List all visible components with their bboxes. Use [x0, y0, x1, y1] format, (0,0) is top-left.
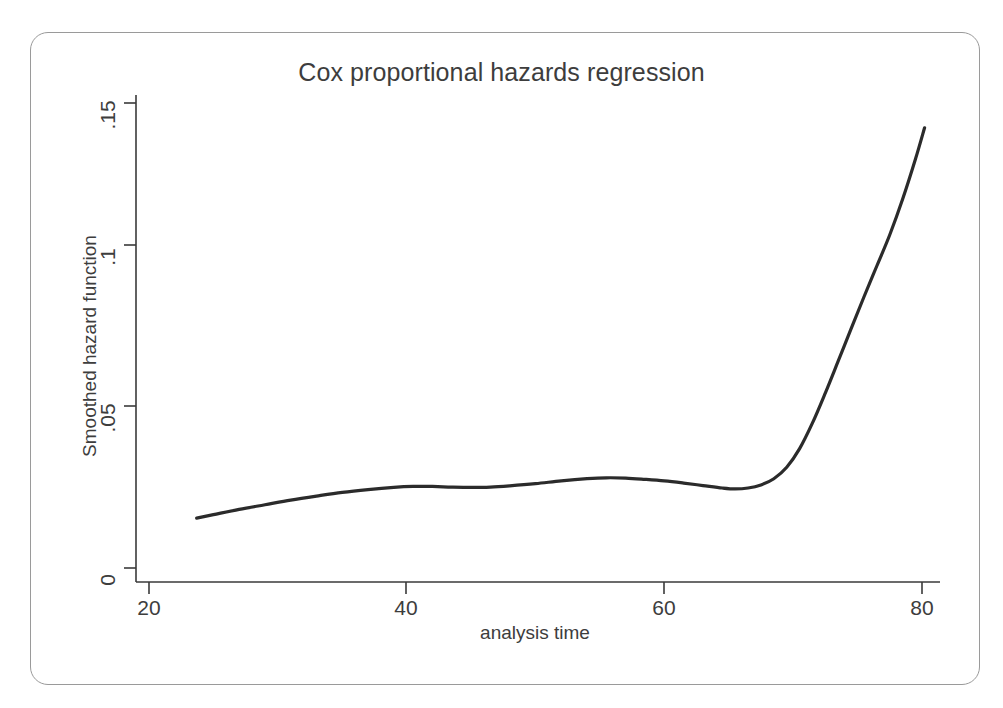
- hazard-curve-line: [197, 128, 925, 518]
- axis-lines: [136, 95, 940, 582]
- y-axis-ticks: [124, 103, 136, 568]
- x-tick-label-80: 80: [892, 596, 952, 620]
- y-axis-label: Smoothed hazard function: [79, 106, 101, 586]
- x-tick-label-40: 40: [376, 596, 436, 620]
- chart-figure: Cox proportional hazards regression 0 .0…: [0, 0, 1003, 708]
- x-tick-label-60: 60: [634, 596, 694, 620]
- x-axis-label: analysis time: [0, 622, 1003, 644]
- x-tick-label-20: 20: [119, 596, 179, 620]
- x-axis-ticks: [149, 582, 922, 594]
